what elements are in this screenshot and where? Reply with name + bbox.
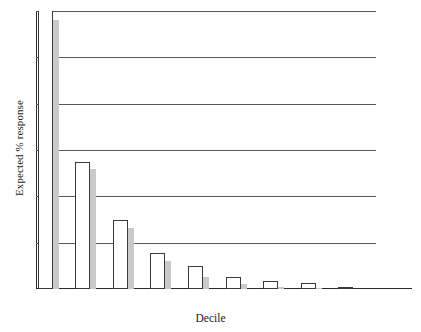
gridline (36, 57, 376, 58)
bar-white (75, 162, 90, 289)
y-axis-title: Expected % response (13, 73, 25, 223)
bar-white (226, 277, 241, 289)
bar-white (38, 11, 53, 289)
plot-area: 01234569876543210 (36, 11, 412, 289)
x-axis-title: Decile (0, 312, 421, 324)
chart-figure: Expected % response 01234569876543210 De… (0, 0, 421, 332)
bar-white (301, 283, 316, 289)
bar-white (263, 281, 278, 289)
bar-white (113, 220, 128, 290)
gridline (36, 11, 376, 12)
bar-white (188, 266, 203, 289)
gridline (36, 150, 376, 151)
gridline (36, 104, 376, 105)
bar-white (338, 287, 353, 289)
bar-white (150, 253, 165, 289)
